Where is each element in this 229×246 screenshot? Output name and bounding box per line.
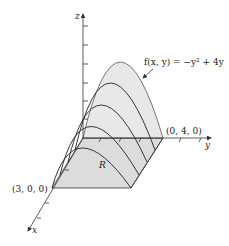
- pointer-arrow: [143, 69, 153, 78]
- solid-diagram: z y x f(x, y) = −y² + 4y (0, 4, 0) (3, 0…: [0, 0, 229, 246]
- point-x-intercept: (3, 0, 0): [12, 184, 48, 194]
- region-label: R: [98, 160, 106, 170]
- x-axis-label: x: [32, 225, 37, 235]
- z-axis-label: z: [74, 11, 80, 21]
- function-label: f(x, y) = −y² + 4y: [144, 57, 225, 67]
- point-y-intercept: (0, 4, 0): [166, 126, 202, 136]
- z-ticks: [83, 26, 88, 119]
- y-axis-label: y: [204, 140, 211, 150]
